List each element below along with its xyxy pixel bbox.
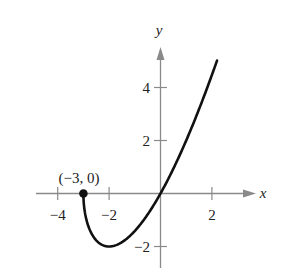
x-axis-arrow-icon <box>243 190 256 198</box>
y-tick-label-4: 4 <box>143 80 151 96</box>
x-axis-label: x <box>259 185 267 201</box>
point-label: (−3, 0) <box>59 170 100 187</box>
y-tick-label-2: 2 <box>143 133 151 149</box>
x-tick-label-neg4: −4 <box>50 207 66 223</box>
y-tick-label-neg2: −2 <box>134 239 150 255</box>
y-axis-arrow-icon <box>157 47 165 60</box>
x-tick-label-neg2: −2 <box>101 207 117 223</box>
x-tick-label-2: 2 <box>208 207 216 223</box>
function-graph: −4 −2 2 4 2 −2 x y (−3, 0) <box>0 0 290 273</box>
y-axis-label: y <box>154 22 163 38</box>
endpoint-marker <box>79 189 88 198</box>
